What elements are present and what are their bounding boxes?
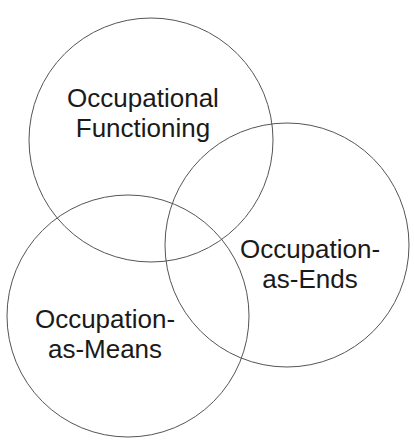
label-occupation-as-ends-line2: as-Ends	[262, 264, 357, 294]
label-occupation-as-means-line1: Occupation-	[35, 304, 175, 334]
venn-diagram: Occupational Functioning Occupation- as-…	[0, 0, 414, 444]
label-occupational-functioning-line2: Functioning	[76, 113, 210, 143]
label-occupation-as-ends-line1: Occupation-	[240, 234, 380, 264]
label-occupational-functioning-line1: Occupational	[67, 83, 219, 113]
label-occupation-as-means-line2: as-Means	[48, 334, 162, 364]
